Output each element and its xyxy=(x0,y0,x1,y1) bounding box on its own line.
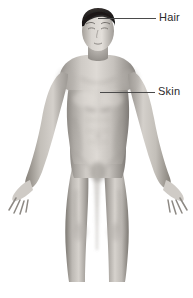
illustration-canvas: Hair Skin xyxy=(0,0,193,298)
label-hair: Hair xyxy=(159,12,180,23)
leader-line-hair xyxy=(98,18,156,19)
human-body-illustration xyxy=(0,0,193,298)
label-skin: Skin xyxy=(158,86,180,97)
leader-line-skin xyxy=(100,92,155,93)
